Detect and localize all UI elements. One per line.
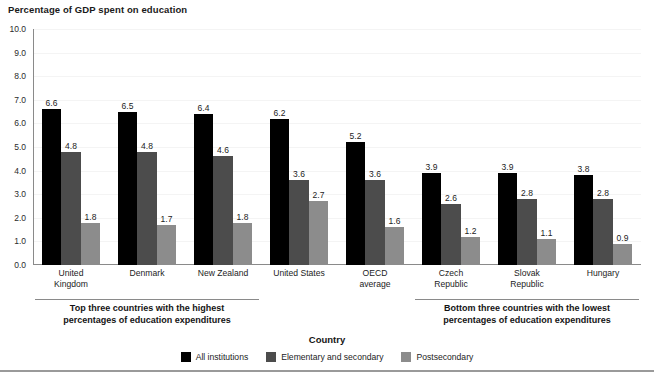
y-axis-tick-label: 3.0 [14, 189, 26, 199]
bar[interactable]: 2.8 [593, 199, 613, 265]
bracket-annotation: Top three countries with the highestperc… [35, 303, 259, 326]
chart-title: Percentage of GDP spent on education [8, 4, 187, 15]
bar-group: 6.23.62.7 [270, 29, 329, 265]
category-label-line: United States [261, 268, 337, 279]
bar[interactable]: 1.8 [81, 223, 101, 265]
y-axis-tick-label: 9.0 [14, 48, 26, 58]
bar[interactable]: 6.6 [42, 109, 62, 265]
x-axis-category-label: United States [261, 268, 337, 279]
legend: All institutionsElementary and secondary… [0, 352, 654, 362]
bar-value-label: 3.9 [502, 162, 514, 172]
bar-value-label: 5.2 [350, 131, 362, 141]
bar-value-label: 2.8 [521, 188, 533, 198]
bar-value-label: 1.1 [541, 228, 553, 238]
legend-label: Elementary and secondary [281, 352, 383, 362]
y-axis-tick-label: 5.0 [14, 142, 26, 152]
y-axis: 10.09.08.07.06.05.04.03.02.01.00.0 [0, 29, 30, 265]
legend-entry[interactable]: All institutions [181, 352, 249, 362]
bar[interactable]: 3.9 [498, 173, 518, 265]
bar[interactable]: 2.7 [309, 201, 329, 265]
x-axis-category-label: Denmark [109, 268, 185, 279]
bar-value-label: 3.6 [369, 169, 381, 179]
bar-value-label: 6.2 [274, 108, 286, 118]
bar[interactable]: 6.4 [194, 114, 214, 265]
x-axis-category-label: CzechRepublic [413, 268, 489, 289]
bar[interactable]: 1.1 [537, 239, 557, 265]
x-axis-category-label: UnitedKingdom [33, 268, 109, 289]
y-axis-tick-label: 6.0 [14, 118, 26, 128]
category-labels: UnitedKingdomDenmarkNew ZealandUnited St… [33, 268, 641, 296]
legend-swatch-icon [266, 352, 276, 362]
y-axis-tick-label: 8.0 [14, 71, 26, 81]
bar[interactable]: 1.6 [385, 227, 405, 265]
y-axis-tick-label: 1.0 [14, 236, 26, 246]
bar-value-label: 4.8 [141, 141, 153, 151]
bar-group: 6.44.61.8 [194, 29, 253, 265]
bar[interactable]: 1.8 [233, 223, 253, 265]
y-axis-tick-label: 7.0 [14, 95, 26, 105]
bottom-rule [0, 370, 654, 372]
bar-value-label: 6.5 [122, 101, 134, 111]
legend-entry[interactable]: Postsecondary [401, 352, 473, 362]
bracket-annotation-line: Bottom three countries with the lowest [415, 303, 639, 315]
bar-value-label: 3.8 [578, 164, 590, 174]
category-label-line: Slovak [489, 268, 565, 279]
category-label-line: Czech [413, 268, 489, 279]
x-axis-category-label: SlovakRepublic [489, 268, 565, 289]
category-label-line: Denmark [109, 268, 185, 279]
bar[interactable]: 4.8 [137, 152, 157, 265]
bar-value-label: 6.4 [198, 103, 210, 113]
y-axis-tick-label: 4.0 [14, 166, 26, 176]
y-axis-tick-label: 10.0 [9, 24, 26, 34]
bar-value-label: 2.6 [445, 193, 457, 203]
bar-value-label: 4.6 [217, 145, 229, 155]
category-label-line: Republic [489, 279, 565, 290]
bar-value-label: 0.9 [617, 233, 629, 243]
bar-value-label: 4.8 [65, 141, 77, 151]
bar-group: 3.92.81.1 [498, 29, 557, 265]
bracket-annotation: Bottom three countries with the lowestpe… [415, 303, 639, 326]
bar-value-label: 2.7 [313, 190, 325, 200]
bar-value-label: 1.6 [389, 216, 401, 226]
bar-group: 3.82.80.9 [574, 29, 633, 265]
category-label-line: New Zealand [185, 268, 261, 279]
category-label-line: OECD [337, 268, 413, 279]
bar-value-label: 1.8 [85, 212, 97, 222]
bar[interactable]: 3.6 [365, 180, 385, 265]
bar[interactable]: 3.6 [289, 180, 309, 265]
bracket-line [35, 299, 259, 300]
y-axis-tick-label: 2.0 [14, 213, 26, 223]
bar[interactable]: 4.8 [61, 152, 81, 265]
bar-value-label: 1.8 [237, 212, 249, 222]
bar[interactable]: 2.8 [517, 199, 537, 265]
x-axis-title: Country [0, 334, 654, 345]
bar[interactable]: 3.9 [422, 173, 442, 265]
category-label-line: Kingdom [33, 279, 109, 290]
bar[interactable]: 6.2 [270, 119, 290, 265]
x-axis-category-label: New Zealand [185, 268, 261, 279]
bar-group: 6.64.81.8 [42, 29, 101, 265]
bar-value-label: 3.6 [293, 169, 305, 179]
bar[interactable]: 4.6 [213, 156, 233, 265]
bar-value-label: 3.9 [426, 162, 438, 172]
bracket-annotation-line: percentages of education expenditures [35, 315, 259, 327]
bar[interactable]: 1.7 [157, 225, 177, 265]
bracket-annotation-line: percentages of education expenditures [415, 315, 639, 327]
bar[interactable]: 2.6 [441, 204, 461, 265]
bar[interactable]: 1.2 [461, 237, 481, 265]
legend-swatch-icon [401, 352, 411, 362]
category-label-line: United [33, 268, 109, 279]
bar[interactable]: 3.8 [574, 175, 594, 265]
bar-value-label: 1.7 [161, 214, 173, 224]
legend-entry[interactable]: Elementary and secondary [266, 352, 383, 362]
category-label-line: Republic [413, 279, 489, 290]
bar-group: 3.92.61.2 [422, 29, 481, 265]
bar-value-label: 2.8 [597, 188, 609, 198]
bar[interactable]: 5.2 [346, 142, 366, 265]
legend-swatch-icon [181, 352, 191, 362]
category-label-line: Hungary [565, 268, 641, 279]
category-label-line: average [337, 279, 413, 290]
bars-layer: 6.64.81.86.54.81.76.44.61.86.23.62.75.23… [33, 29, 641, 265]
bar[interactable]: 6.5 [118, 112, 138, 265]
bar[interactable]: 0.9 [613, 244, 633, 265]
